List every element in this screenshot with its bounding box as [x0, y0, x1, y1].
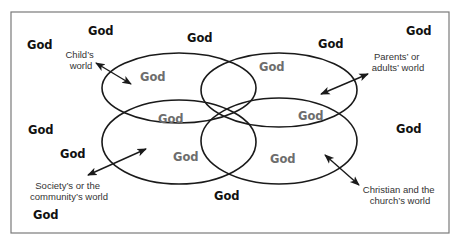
inner-god-label: God — [270, 152, 296, 166]
inner-god-label: God — [259, 60, 285, 74]
outer-god-label: God — [396, 122, 422, 136]
outer-god-label: God — [318, 37, 344, 51]
child-world-label: Child’s world — [66, 49, 97, 71]
outer-god-label: God — [88, 24, 114, 38]
inner-god-label: God — [158, 112, 184, 126]
inner-god-label: God — [173, 150, 199, 164]
outer-god-label: God — [33, 208, 59, 222]
four-worlds-diagram: Child’s world Parents’ or adults’ world … — [0, 0, 459, 242]
outer-god-label: God — [27, 38, 53, 52]
parents-world-label: Parents’ or adults’ world — [372, 51, 424, 73]
church-world-label: Christian and the church’s world — [363, 184, 437, 206]
outer-god-label: God — [60, 147, 86, 161]
inner-god-label: God — [140, 70, 166, 84]
outer-god-label: God — [214, 189, 240, 203]
outer-god-label: God — [406, 24, 432, 38]
outer-god-label: God — [187, 31, 213, 45]
society-world-label: Society’s or the community’s world — [30, 180, 108, 202]
inner-god-label: God — [298, 109, 324, 123]
outer-god-label: God — [28, 123, 54, 137]
